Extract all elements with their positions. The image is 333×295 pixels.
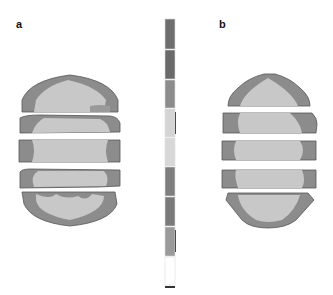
panel-a-slice-2-inner [32,118,110,133]
colorbar-seg-5 [165,138,175,166]
colorbar-seg-3 [165,80,175,108]
colorbar-seg-8 [165,227,175,256]
panel-a-slice-1-patch [90,105,110,112]
colorbar-seg-2 [165,50,175,79]
panel-b-slices [222,74,317,228]
panel-a-slice-4-inner [33,171,108,187]
colorbar-seg-7 [165,197,175,226]
colorbar [165,19,176,288]
colorbar-seg-9 [165,257,175,285]
panel-b-slice-2-inner [238,113,302,133]
figure-canvas [0,0,333,295]
colorbar-seg-4 [165,109,175,137]
colorbar-seg-1 [165,19,175,49]
colorbar-end-mark [165,286,175,288]
panel-b-slice-4-inner [235,170,304,188]
panel-a-slice-3-inner [32,140,108,162]
panel-b-slice-3-inner [234,141,303,160]
panel-a-slices [19,75,120,226]
colorbar-seg-6 [165,167,175,196]
